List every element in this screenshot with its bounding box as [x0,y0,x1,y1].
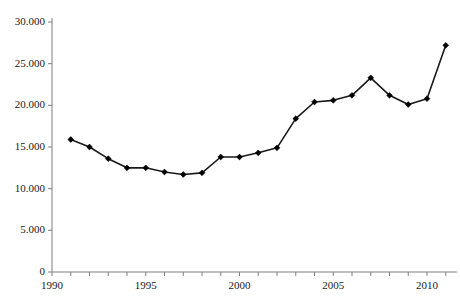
x-tick-label: 2000 [215,280,265,291]
chart-plot-area [0,0,460,300]
data-point-marker [124,165,130,171]
data-point-marker [162,169,168,175]
data-point-marker [424,96,430,102]
data-point-marker [255,150,261,156]
x-tick-label: 2010 [402,280,452,291]
y-tick-label: 20.000 [0,99,45,110]
y-tick-label: 5.000 [0,224,45,235]
y-tick-label: 10.000 [0,183,45,194]
data-point-marker [68,137,74,143]
x-tick-label: 2005 [308,280,358,291]
data-point-marker [180,172,186,178]
y-tick-label: 30.000 [0,16,45,27]
y-tick-label: 25.000 [0,58,45,69]
line-chart: 05.00010.00015.00020.00025.00030.000 199… [0,0,460,300]
x-axis [52,272,457,276]
x-tick-label: 1990 [27,280,77,291]
data-point-marker [237,154,243,160]
y-tick-label: 0 [0,266,45,277]
data-series [68,42,449,177]
y-axis [48,18,52,272]
data-point-marker [405,102,411,108]
y-tick-label: 15.000 [0,141,45,152]
data-point-marker [330,97,336,103]
data-point-marker [143,165,149,171]
data-point-marker [443,42,449,48]
x-tick-label: 1995 [121,280,171,291]
